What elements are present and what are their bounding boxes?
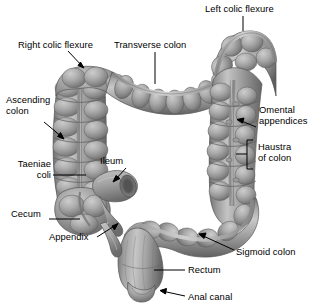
label-right-colic-flexure: Right colic flexure (18, 39, 93, 50)
label-left-colic-flexure: Left colic flexure (205, 3, 274, 14)
label-anal-canal: Anal canal (188, 291, 232, 302)
label-taeniae-coli: Taeniae coli (5, 158, 51, 180)
label-rectum: Rectum (188, 264, 221, 275)
label-appendix: Appendix (49, 231, 89, 242)
label-ileum: Ileum (100, 155, 123, 166)
labels-layer: Left colic flexure Right colic flexure T… (0, 0, 313, 308)
label-transverse-colon: Transverse colon (114, 39, 186, 50)
label-omental-appendices: Omental appendices (259, 104, 307, 126)
label-sigmoid-colon: Sigmoid colon (236, 246, 296, 257)
large-intestine-figure: Left colic flexure Right colic flexure T… (0, 0, 313, 308)
label-ascending-colon: Ascending colon (6, 94, 50, 116)
label-cecum: Cecum (11, 208, 41, 219)
label-haustra-of-colon: Haustra of colon (258, 141, 291, 163)
